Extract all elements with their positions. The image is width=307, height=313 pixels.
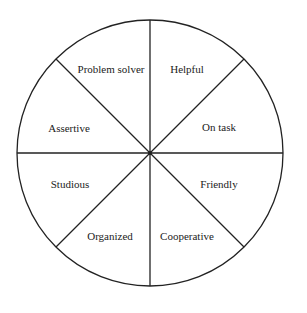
segment-label-on-task: On task [202,121,236,133]
trait-wheel: Problem solver Helpful Assertive On task… [0,0,307,313]
segment-label-studious: Studious [51,178,90,190]
segment-label-cooperative: Cooperative [160,230,214,242]
segment-label-friendly: Friendly [200,178,238,190]
segment-label-assertive: Assertive [48,122,90,134]
segment-label-problem-solver: Problem solver [78,63,145,75]
segment-label-helpful: Helpful [170,63,204,75]
center-dot [148,151,152,155]
segment-label-organized: Organized [87,230,133,242]
